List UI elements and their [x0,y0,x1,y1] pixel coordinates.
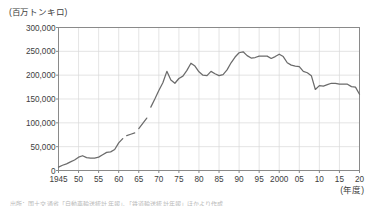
x-tick-label: 70 [154,175,163,184]
x-tick-label: 55 [94,175,103,184]
x-tick-label: 10 [315,175,324,184]
y-tick-label: 50,000 [30,142,55,151]
y-tick-label: 150,000 [26,95,56,104]
y-tick-label: 200,000 [26,71,56,80]
x-tick-label: 65 [134,175,143,184]
x-axis-unit-label: (年度) [340,183,364,195]
x-tick-label: 60 [114,175,123,184]
grid-lines [59,28,360,171]
x-tick-label: 50 [74,175,83,184]
y-tick-label: 250,000 [26,47,56,56]
x-tick-label: 80 [194,175,203,184]
chart-footnote: 出所：国土交通省「自動車輸送統計年報」、「鉄道輸送統計年報」ほかより作成 [10,199,224,206]
y-tick-label: 300,000 [26,23,56,32]
data-line [59,52,360,167]
x-tick-label: 85 [214,175,223,184]
y-tick-label: 100,000 [26,118,56,127]
x-tick-label: 1945 [49,175,67,184]
x-tick-label: 2000 [270,175,288,184]
x-tick-label: 95 [255,175,264,184]
chart-figure: (百万トンキロ) 300,000250,000200,000150,000100… [0,0,371,206]
x-tick-label: 90 [235,175,244,184]
axis-ticks [56,28,360,174]
x-tick-label: 75 [174,175,183,184]
plot-area-wrapper: 300,000250,000200,000150,000100,00050,00… [0,0,371,206]
x-tick-label: 05 [295,175,304,184]
